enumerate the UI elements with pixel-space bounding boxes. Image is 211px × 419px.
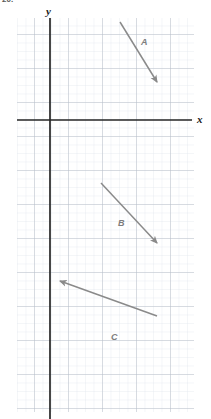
y-axis-label: y bbox=[46, 5, 51, 17]
vector-label-c: C bbox=[111, 332, 118, 342]
x-axis-label: x bbox=[197, 113, 203, 125]
grid-lines bbox=[17, 18, 194, 412]
coordinate-plane-plot bbox=[0, 0, 211, 419]
vector-label-a: A bbox=[141, 37, 148, 47]
vector-label-b: B bbox=[118, 218, 125, 228]
figure-canvas: 20. y x bbox=[0, 0, 211, 419]
